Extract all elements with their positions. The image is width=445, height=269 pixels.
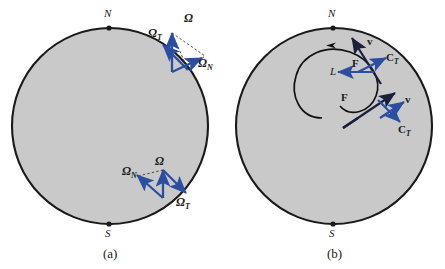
omega-label-upper-a: Ω xyxy=(184,12,193,24)
north-pole-marker-b xyxy=(330,25,335,30)
velocity-label-upper-b: v xyxy=(367,36,373,47)
velocity-label-lower-b: v xyxy=(405,94,411,105)
panel-b-caption: (b) xyxy=(327,247,342,260)
trajectory-label-b: L xyxy=(330,66,336,77)
south-pole-marker-a xyxy=(106,221,111,226)
north-pole-label-b: N xyxy=(328,8,335,19)
force-label-upper-b: F xyxy=(352,58,359,69)
omega-t-label-upper-a: ΩT xyxy=(148,27,162,42)
omega-label-lower-a: Ω xyxy=(155,155,164,167)
south-pole-label-a: S xyxy=(105,228,111,239)
coriolis-label-upper-b: CT xyxy=(386,52,399,66)
omega-t-label-lower-a: ΩT xyxy=(176,196,190,211)
north-pole-label-a: N xyxy=(104,8,111,19)
south-pole-label-b: S xyxy=(329,228,335,239)
figure-svg xyxy=(0,0,445,269)
omega-n-label-upper-a: ΩN xyxy=(198,57,213,72)
coriolis-label-lower-b: CT xyxy=(398,124,411,138)
panel-a-caption: (a) xyxy=(103,247,117,260)
force-label-lower-b: F xyxy=(341,92,348,103)
figure-container: N S Ω ΩT ΩN Ω ΩN ΩT (a) N S v CT F L F v… xyxy=(0,0,445,269)
south-pole-marker-b xyxy=(330,221,335,226)
north-pole-marker-a xyxy=(106,25,111,30)
omega-n-label-lower-a: ΩN xyxy=(122,165,137,180)
